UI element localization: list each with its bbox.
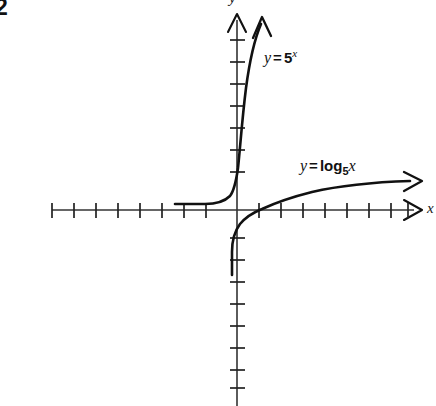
exponential-label-equals: = — [271, 49, 284, 66]
exponential-curve-label: y=5x — [264, 50, 297, 66]
figure-canvas: 2 y x y=5x y=log5x — [0, 0, 436, 406]
logarithm-label-function: log — [320, 157, 343, 174]
logarithm-curve — [232, 172, 422, 275]
exponential-label-base: 5 — [284, 49, 292, 66]
exponential-label-exponent: x — [292, 47, 297, 59]
logarithm-curve-label: y=log5x — [300, 158, 356, 174]
figure-number: 2 — [0, 0, 7, 19]
y-axis-label: y — [229, 0, 236, 6]
x-axis-label: x — [427, 201, 434, 216]
coordinate-plane-graph — [0, 0, 436, 406]
exponential-curve — [175, 17, 271, 204]
logarithm-label-argument: x — [349, 157, 356, 174]
logarithm-label-equals: = — [307, 157, 320, 174]
